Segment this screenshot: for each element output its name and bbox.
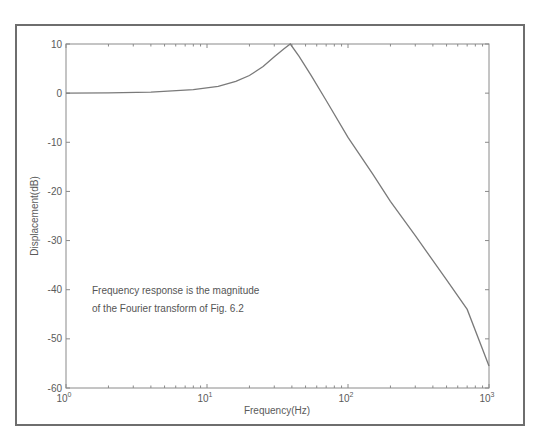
x-tick-label: 101 xyxy=(197,391,212,404)
y-tick-label: -30 xyxy=(48,235,63,246)
frequency-response-chart: 100-10-20-30-40-50-60100101102103 Freque… xyxy=(0,0,542,434)
x-tick-label: 102 xyxy=(338,391,353,404)
y-tick-label: 0 xyxy=(56,88,62,99)
annotation-line-1: Frequency response is the magnitude xyxy=(92,285,260,296)
annotation-line-2: of the Fourier transform of Fig. 6.2 xyxy=(92,303,244,314)
y-tick-label: -40 xyxy=(48,284,63,295)
plot-axes xyxy=(66,44,489,388)
y-tick-label: -10 xyxy=(48,137,63,148)
y-tick-label: -60 xyxy=(48,383,63,394)
x-axis-label: Frequency(Hz) xyxy=(244,405,310,416)
y-tick-label: 10 xyxy=(51,39,63,50)
plot-area-border xyxy=(66,44,489,388)
y-tick-label: -20 xyxy=(48,186,63,197)
x-tick-label: 100 xyxy=(56,391,71,404)
y-axis-label: Displacement(dB) xyxy=(29,176,40,255)
x-tick-label: 103 xyxy=(479,391,494,404)
frequency-response-curve xyxy=(66,44,489,366)
y-tick-label: -50 xyxy=(48,333,63,344)
